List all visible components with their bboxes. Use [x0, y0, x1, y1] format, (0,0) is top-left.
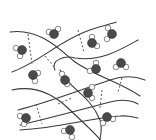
- water-molecule-icon: [46, 26, 61, 38]
- oxygen-atom: [22, 114, 31, 123]
- polymer-chains: [10, 22, 145, 140]
- oxygen-atom: [50, 30, 59, 39]
- oxygen-atom: [88, 39, 97, 48]
- oxygen-atom: [29, 71, 38, 80]
- oxygen-atom: [103, 113, 112, 122]
- oxygen-atom: [117, 59, 126, 68]
- water-molecule-icon: [88, 34, 100, 49]
- crosslink-dashed: [28, 34, 32, 64]
- water-molecule-icon: [104, 25, 116, 42]
- hydrogen-atom: [69, 134, 75, 140]
- hydrogel-network-figure: [0, 0, 156, 140]
- oxygen-atom: [61, 76, 70, 85]
- water-molecule-icon: [17, 113, 30, 127]
- oxygen-atom: [92, 65, 101, 74]
- polymer-chain: [12, 22, 116, 72]
- crosslinks: [28, 30, 122, 124]
- water-molecule-icon: [100, 113, 116, 126]
- crosslink-dashed: [100, 90, 102, 108]
- water-molecule-icon: [59, 71, 70, 87]
- water-molecule-icon: [113, 59, 129, 70]
- oxygen-atom: [108, 30, 117, 39]
- water-molecule-icon: [29, 70, 41, 84]
- water-molecule-icon: [87, 60, 100, 74]
- water-molecule-icon: [13, 45, 26, 59]
- water-molecule-icon: [61, 126, 75, 140]
- hydrogel-diagram: [0, 0, 156, 140]
- oxygen-atom: [18, 46, 27, 55]
- oxygen-atom: [84, 89, 93, 98]
- oxygen-atom: [66, 126, 75, 135]
- crosslink-dashed: [45, 56, 55, 68]
